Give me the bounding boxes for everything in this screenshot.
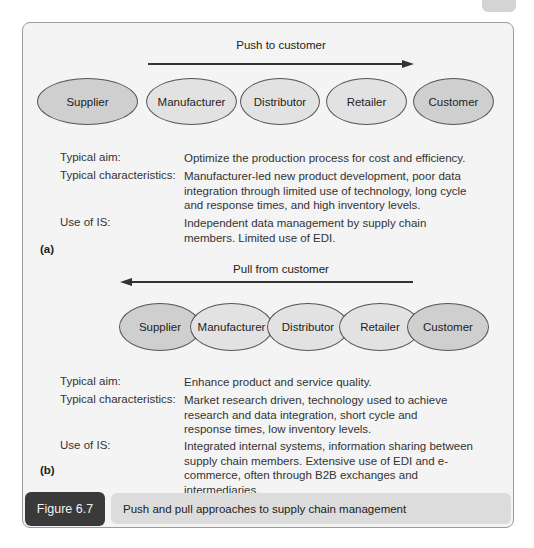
node-manufacturer-b: Manufacturer bbox=[190, 303, 273, 351]
value-typical-characteristics-b: Market research driven, technology used … bbox=[184, 393, 454, 437]
label-use-of-is-b: Use of IS: bbox=[60, 438, 111, 453]
label-typical-characteristics-b: Typical characteristics: bbox=[60, 392, 176, 407]
node-distributor-a: Distributor bbox=[240, 78, 320, 125]
label-typical-characteristics-a: Typical characteristics: bbox=[60, 168, 176, 183]
value-use-of-is-a: Independent data management by supply ch… bbox=[184, 216, 474, 245]
push-arrow-line bbox=[148, 63, 406, 65]
figure-caption: Push and pull approaches to supply chain… bbox=[111, 493, 511, 524]
value-use-of-is-b: Integrated internal systems, information… bbox=[184, 439, 494, 497]
figure-caption-bar: Figure 6.7 Push and pull approaches to s… bbox=[23, 491, 513, 527]
node-supplier-a: Supplier bbox=[37, 78, 138, 125]
node-distributor-b: Distributor bbox=[267, 303, 349, 351]
push-arrow-label: Push to customer bbox=[206, 39, 356, 51]
node-manufacturer-a: Manufacturer bbox=[146, 78, 237, 125]
part-label-b: (b) bbox=[40, 464, 55, 476]
node-customer-a: Customer bbox=[413, 78, 494, 125]
figure-number: Figure 6.7 bbox=[25, 492, 105, 526]
page-corner-tab bbox=[482, 0, 516, 12]
pull-arrow-label: Pull from customer bbox=[206, 263, 356, 275]
node-customer-b: Customer bbox=[407, 303, 489, 351]
value-typical-aim-a: Optimize the production process for cost… bbox=[184, 151, 504, 166]
label-typical-aim-b: Typical aim: bbox=[60, 374, 121, 389]
part-label-a: (a) bbox=[40, 243, 54, 255]
label-use-of-is-a: Use of IS: bbox=[60, 215, 111, 230]
pull-arrow-line bbox=[130, 281, 413, 283]
value-typical-characteristics-a: Manufacturer-led new product development… bbox=[184, 169, 484, 213]
label-typical-aim-a: Typical aim: bbox=[60, 150, 121, 165]
arrow-right-icon bbox=[402, 60, 414, 68]
node-retailer-a: Retailer bbox=[326, 78, 407, 125]
node-supplier-b: Supplier bbox=[119, 303, 201, 351]
arrow-left-icon bbox=[120, 278, 132, 286]
value-typical-aim-b: Enhance product and service quality. bbox=[184, 375, 504, 390]
